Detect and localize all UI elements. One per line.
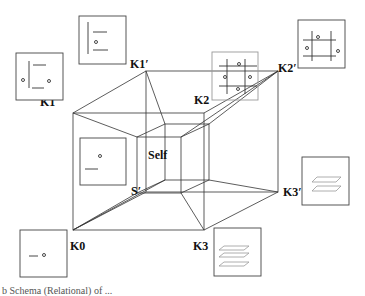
inset-k3 — [214, 228, 261, 276]
figure-caption: b Schema (Relational) of ... — [2, 285, 112, 296]
inset-k2-prime — [298, 20, 345, 68]
inset-k1-prime — [79, 16, 126, 64]
inset-k2 — [212, 52, 258, 100]
inset-self — [80, 138, 126, 185]
label-k3: K3 — [193, 239, 208, 253]
inset-k0 — [20, 230, 67, 277]
label-self: Self — [148, 148, 168, 162]
label-s-prime: S′ — [131, 184, 141, 198]
label-k0: K0 — [70, 239, 85, 253]
label-k3-prime: K3′ — [283, 185, 302, 199]
inset-k3-prime — [302, 157, 349, 205]
label-k2: K2 — [194, 93, 209, 107]
label-k1-prime: K1′ — [130, 57, 149, 71]
label-k2-prime: K2′ — [278, 61, 297, 75]
vertex-labels: K1 K1′ K2 K2′ K3′ K3 K0 Self S′ — [40, 57, 302, 253]
inset-k1 — [16, 53, 63, 100]
